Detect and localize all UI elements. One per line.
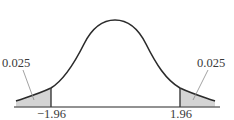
left-cutoff-tick-label: −1.96 [37, 108, 66, 120]
left-leader-line [23, 70, 34, 100]
left-tail-area-label: 0.025 [2, 57, 30, 70]
bell-curve [16, 20, 215, 101]
right-cutoff-tick-label: 1.96 [170, 108, 192, 120]
right-tail-area-label: 0.025 [197, 57, 225, 70]
